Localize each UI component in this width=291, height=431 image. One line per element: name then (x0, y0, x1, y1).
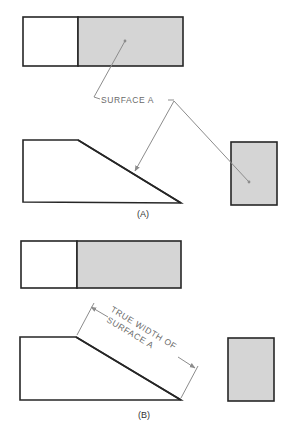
dimension-label: TRUE WIDTH OF SURFACE A (103, 304, 178, 361)
panel-a-front-view (23, 140, 181, 203)
top-view-left-face (23, 17, 78, 66)
dimension-arrow-left (91, 307, 108, 317)
panel-a: SURFACE A (A) (23, 17, 277, 219)
panel-b-front-view (20, 337, 181, 400)
side-view-surface-a (231, 142, 277, 205)
top-view-surface-a (77, 241, 181, 288)
side-view-surface-a (228, 338, 274, 401)
surface-a-label: SURFACE A (101, 95, 154, 105)
panel-b-side-view (228, 338, 274, 401)
caption-a: (A) (137, 209, 149, 219)
panel-b-top-view (21, 241, 181, 288)
extension-line-right (181, 366, 198, 398)
front-view-outline (20, 337, 181, 400)
panel-a-side-view (231, 142, 277, 205)
front-view-outline (23, 140, 181, 203)
top-view-surface-a (78, 17, 183, 66)
panel-a-top-view (23, 17, 183, 66)
leader-dot-top (124, 40, 127, 43)
leader-dot-side (248, 181, 251, 184)
panel-b: TRUE WIDTH OF SURFACE A (B) (20, 241, 274, 420)
orthographic-drawing: SURFACE A (A) TRUE WIDTH OF SURFACE A (B… (0, 0, 291, 431)
caption-b: (B) (138, 410, 150, 420)
top-view-left-face (21, 241, 77, 288)
leader-arrow-to-front-edge (135, 101, 174, 171)
dimension-arrow-right (178, 357, 195, 368)
